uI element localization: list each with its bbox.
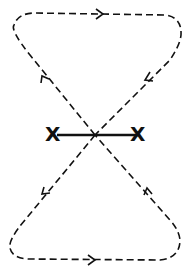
upper-loop-path bbox=[13, 13, 181, 135]
x-marker-left: X bbox=[45, 124, 60, 144]
x-marker-right: X bbox=[130, 124, 145, 144]
lower-loop-path bbox=[10, 135, 180, 260]
figure-eight-diagram bbox=[0, 0, 187, 271]
